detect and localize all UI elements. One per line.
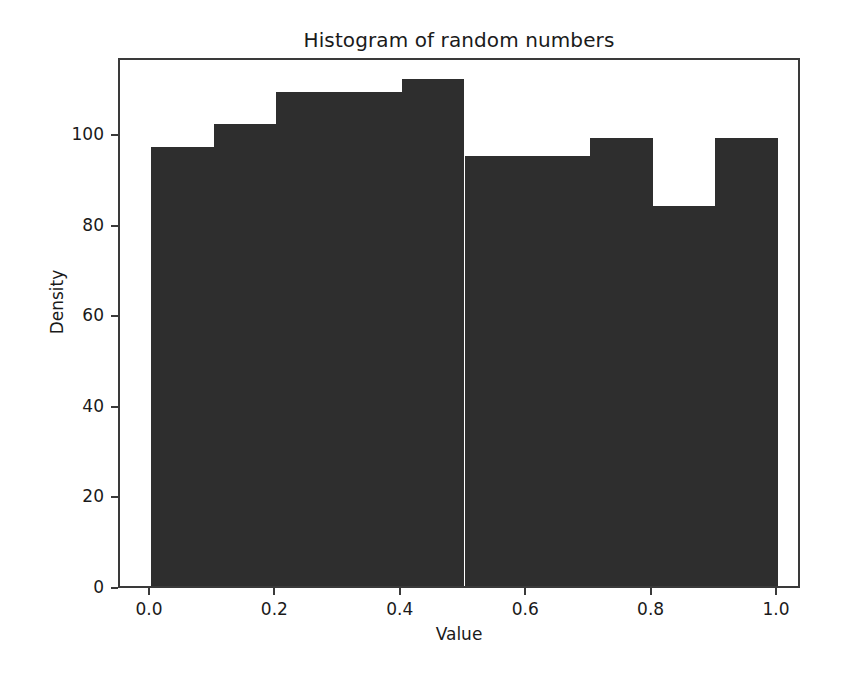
y-tick-mark bbox=[111, 587, 118, 589]
x-tick-label: 0.8 bbox=[621, 599, 681, 619]
histogram-bar bbox=[527, 156, 590, 586]
histogram-bar bbox=[151, 147, 214, 586]
histogram-bar bbox=[590, 138, 653, 586]
x-tick-label: 0.2 bbox=[244, 599, 304, 619]
x-tick-mark bbox=[650, 588, 652, 595]
x-tick-label: 0.0 bbox=[119, 599, 179, 619]
histogram-bar bbox=[214, 124, 277, 586]
y-tick-mark bbox=[111, 134, 118, 136]
x-tick-mark bbox=[399, 588, 401, 595]
histogram-bar bbox=[465, 156, 528, 586]
histogram-bar bbox=[276, 92, 339, 586]
y-axis-label: Density bbox=[47, 242, 67, 362]
y-tick-mark bbox=[111, 496, 118, 498]
histogram-figure: Histogram of random numbers Density 0204… bbox=[0, 0, 866, 683]
y-tick-mark bbox=[111, 225, 118, 227]
x-axis-label: Value bbox=[118, 624, 800, 644]
y-tick-label: 60 bbox=[82, 305, 104, 325]
x-tick-mark bbox=[148, 588, 150, 595]
histogram-bars bbox=[120, 60, 798, 586]
y-tick-label: 40 bbox=[82, 396, 104, 416]
histogram-bar bbox=[402, 79, 465, 586]
x-tick-label: 1.0 bbox=[746, 599, 806, 619]
y-tick-label: 0 bbox=[93, 577, 104, 597]
x-tick-label: 0.4 bbox=[370, 599, 430, 619]
histogram-bar bbox=[653, 206, 716, 587]
x-tick-mark bbox=[775, 588, 777, 595]
plot-area bbox=[118, 58, 800, 588]
y-tick-mark bbox=[111, 315, 118, 317]
page-title: Histogram of random numbers bbox=[118, 28, 800, 52]
y-tick-mark bbox=[111, 406, 118, 408]
y-tick-label: 80 bbox=[82, 215, 104, 235]
x-tick-mark bbox=[524, 588, 526, 595]
y-tick-label: 20 bbox=[82, 486, 104, 506]
x-tick-label: 0.6 bbox=[495, 599, 555, 619]
y-tick-label: 100 bbox=[72, 124, 104, 144]
histogram-bar bbox=[339, 92, 402, 586]
histogram-bar bbox=[715, 138, 778, 586]
x-tick-mark bbox=[273, 588, 275, 595]
